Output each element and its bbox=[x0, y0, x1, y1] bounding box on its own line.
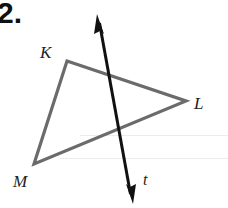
figure-canvas: 2. K L M t bbox=[0, 0, 228, 208]
problem-number: 2. bbox=[0, 0, 22, 28]
line-label-t: t bbox=[143, 172, 147, 188]
arrow-down-icon bbox=[126, 184, 136, 204]
vertex-label-l: L bbox=[194, 95, 203, 112]
arrow-up-icon bbox=[94, 14, 104, 34]
line-t bbox=[94, 14, 136, 204]
vertex-label-k: K bbox=[40, 44, 51, 61]
vertex-label-m: M bbox=[13, 173, 27, 190]
